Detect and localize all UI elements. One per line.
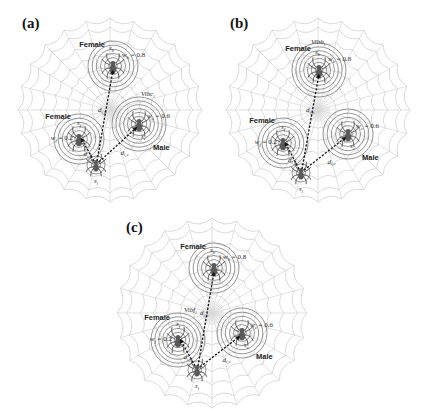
spider-abdomen	[345, 133, 351, 142]
distance-arrow-line	[304, 139, 343, 170]
weight-label-right: wc = 0.6	[250, 321, 274, 330]
panel-b: (b)Femalesbwb = 0.8wc = 0.6scMaleFemales…	[226, 15, 410, 202]
distance-label-right: di,c	[223, 356, 232, 366]
panel-label: (c)	[126, 219, 143, 236]
weight-label-top: wb = 0.8	[328, 55, 352, 64]
web-radial-thread	[238, 64, 318, 110]
sex-label-top: Female	[79, 40, 105, 49]
arrow-to-right	[304, 137, 346, 170]
spider-top	[102, 53, 124, 79]
weight-label-left: wf = 0.2	[150, 335, 173, 344]
sex-label-right: Male	[153, 143, 170, 152]
vibration-label: Vibbi	[311, 38, 326, 47]
spider-id-bottom: si	[299, 185, 304, 194]
sex-label-right: Male	[256, 352, 273, 361]
spider-abdomen	[136, 123, 142, 132]
web-radial-thread	[45, 45, 110, 110]
sex-label-right: Male	[362, 153, 379, 162]
panel-c: (c)Femalesbwb = 0.8wc = 0.6scMaleFemales…	[117, 218, 307, 408]
distance-label-right: di,c	[328, 158, 337, 168]
panel-label: (b)	[230, 15, 248, 32]
vibration-label: Vibfi	[184, 306, 197, 315]
distance-arrow-line	[200, 338, 237, 367]
weight-label-right: wc = 0.6	[356, 122, 380, 131]
weight-label-top: wb = 0.8	[223, 253, 247, 262]
web-radial-thread	[212, 231, 260, 313]
web-radial-thread	[318, 64, 398, 110]
spider-id-right: sc	[350, 142, 356, 151]
spider-id-left: sf	[77, 119, 82, 128]
sex-label-left: Female	[45, 112, 71, 121]
spider-id-right: sc	[244, 341, 250, 350]
web-radial-thread	[110, 30, 156, 110]
panel-a: (a)Femalesbwb = 0.8wc = 0.6scMaleFemales…	[18, 15, 202, 202]
arrow-to-top	[198, 272, 216, 366]
web-radial-thread	[30, 64, 110, 110]
spider-leg	[98, 168, 101, 176]
web-radial-thread	[130, 266, 212, 314]
spider-abdomen	[298, 172, 304, 180]
spider-id-left: sf	[281, 123, 286, 132]
spider-id-bottom: si	[94, 177, 99, 186]
spider-abdomen	[93, 164, 99, 172]
weight-label-right: wc = 0.6	[147, 112, 171, 121]
spider-web-figure: (a)Femalesbwb = 0.8wc = 0.6scMaleFemales…	[0, 0, 423, 409]
spider-id-bottom: si	[195, 382, 200, 391]
sex-label-left: Female	[249, 116, 275, 125]
spider-leg	[303, 176, 306, 184]
sex-label-top: Female	[285, 44, 311, 53]
weight-label-left: wf = 0.2	[255, 138, 278, 147]
spider-abdomen	[239, 332, 245, 341]
weight-label-left: wf = 0.2	[51, 134, 74, 143]
distance-label-right: di,c	[121, 149, 130, 159]
vibration-label: Vibci	[141, 90, 155, 99]
web-radial-thread	[272, 110, 318, 190]
sex-label-top: Female	[180, 242, 206, 251]
web-radial-thread	[212, 266, 294, 314]
sex-label-left: Female	[144, 313, 170, 322]
weight-label-top: wb = 0.8	[122, 51, 146, 60]
panel-label: (a)	[22, 15, 40, 32]
spider-abdomen	[194, 369, 200, 377]
spider-leg	[199, 373, 202, 381]
distance-label-left: di,f	[288, 156, 296, 166]
spider-bottom	[187, 359, 207, 382]
arrow-to-right	[99, 127, 137, 162]
